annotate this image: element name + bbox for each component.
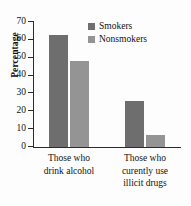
bar-chart: Percentage 706050403020100 SmokersNonsmo… bbox=[0, 0, 191, 206]
legend-item: Smokers bbox=[88, 20, 147, 32]
y-tick: 40 bbox=[33, 75, 38, 76]
y-tick: 0 bbox=[33, 146, 38, 147]
bar bbox=[146, 135, 165, 147]
y-tick-mark bbox=[28, 146, 33, 147]
legend-label: Nonsmokers bbox=[99, 34, 147, 45]
y-tick: 20 bbox=[33, 110, 38, 111]
y-tick-mark bbox=[28, 21, 33, 22]
y-tick-mark bbox=[28, 39, 33, 40]
y-tick-mark bbox=[28, 92, 33, 93]
x-axis-line bbox=[33, 147, 181, 148]
category-label-line: Those who bbox=[100, 152, 190, 165]
y-tick: 30 bbox=[33, 92, 38, 93]
y-tick-label: 50 bbox=[17, 50, 27, 62]
bar bbox=[49, 35, 68, 148]
legend-swatch-icon bbox=[88, 23, 95, 30]
y-tick-mark bbox=[28, 75, 33, 76]
legend-item: Nonsmokers bbox=[88, 33, 147, 45]
y-tick-label: 30 bbox=[17, 86, 27, 98]
y-tick: 50 bbox=[33, 57, 38, 58]
y-tick-label: 20 bbox=[17, 104, 27, 116]
y-tick-label: 60 bbox=[17, 32, 27, 44]
y-tick: 60 bbox=[33, 39, 38, 40]
y-tick-mark bbox=[28, 128, 33, 129]
y-tick-label: 10 bbox=[17, 122, 27, 134]
y-tick-mark bbox=[28, 57, 33, 58]
bar bbox=[125, 101, 144, 147]
category-label-line: curently use bbox=[100, 165, 190, 178]
bar bbox=[70, 61, 89, 147]
legend-swatch-icon bbox=[88, 36, 95, 43]
y-tick: 70 bbox=[33, 21, 38, 22]
legend-label: Smokers bbox=[99, 21, 132, 32]
y-tick: 10 bbox=[33, 128, 38, 129]
y-tick-label: 40 bbox=[17, 68, 27, 80]
chart-legend: SmokersNonsmokers bbox=[88, 20, 147, 46]
x-axis-category-label: Those whocurently useillicit drugs bbox=[100, 152, 190, 190]
y-tick-label: 0 bbox=[21, 140, 26, 152]
category-label-line: illicit drugs bbox=[100, 177, 190, 190]
y-tick-mark bbox=[28, 110, 33, 111]
y-tick-label: 70 bbox=[17, 15, 27, 27]
